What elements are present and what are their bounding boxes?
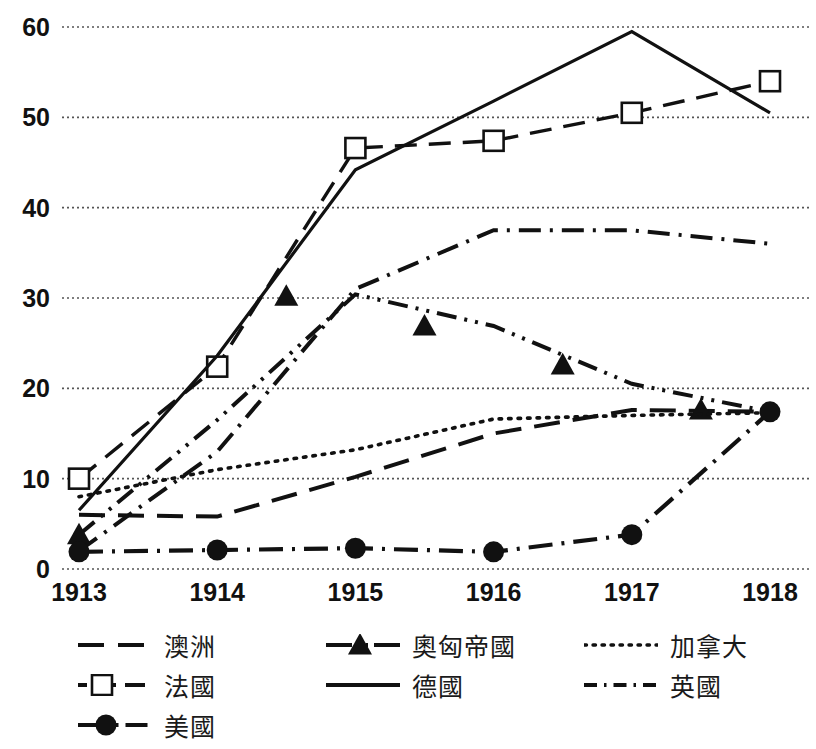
legend-label-canada: 加拿大 <box>670 627 748 663</box>
legend-item-britain[interactable]: 英國 <box>584 665 808 705</box>
y-axis-tick-labels: 0102030405060 <box>22 13 50 583</box>
marker-austria-hungary-2 <box>413 314 437 336</box>
y-tick-label-40: 40 <box>22 194 50 222</box>
legend-label-france: 法國 <box>164 667 216 703</box>
marker-austria-hungary-3 <box>551 353 575 375</box>
marker-austria-hungary-1 <box>274 284 298 306</box>
legend-label-usa: 美國 <box>164 707 216 743</box>
legend-item-germany[interactable]: 德國 <box>326 665 584 705</box>
marker-usa-1914 <box>207 540 228 561</box>
legend-swatch-germany <box>326 674 400 696</box>
y-tick-label-50: 50 <box>22 103 50 131</box>
legend-item-australia[interactable]: 澳洲 <box>78 625 326 665</box>
x-tick-label-1914: 1914 <box>189 578 245 606</box>
legend-marker-france <box>92 675 112 695</box>
legend-swatch-france <box>78 674 152 696</box>
legend-item-austria-hungary[interactable]: 奧匈帝國 <box>326 625 584 665</box>
marker-france-1916 <box>484 131 504 151</box>
legend-item-france[interactable]: 法國 <box>78 665 326 705</box>
gridlines <box>62 27 812 569</box>
marker-france-1915 <box>345 138 365 158</box>
series-line-france <box>79 81 770 478</box>
chart-legend: 澳洲奧匈帝國加拿大法國德國英國美國 <box>78 625 808 745</box>
legend-label-australia: 澳洲 <box>164 627 216 663</box>
legend-swatch-britain <box>584 674 658 696</box>
series-australia <box>79 410 770 517</box>
y-tick-label-20: 20 <box>22 374 50 402</box>
x-tick-label-1916: 1916 <box>466 578 522 606</box>
legend-marker-usa <box>96 715 117 736</box>
legend-label-britain: 英國 <box>670 667 722 703</box>
x-tick-label-1917: 1917 <box>604 578 660 606</box>
y-tick-label-30: 30 <box>22 284 50 312</box>
legend-label-germany: 德國 <box>412 667 464 703</box>
x-tick-label-1918: 1918 <box>742 578 798 606</box>
marker-usa-1915 <box>345 538 366 559</box>
marker-france-1914 <box>207 357 227 377</box>
series-line-australia <box>79 410 770 517</box>
marker-usa-1918 <box>760 401 781 422</box>
legend-swatch-canada <box>584 634 658 656</box>
legend-item-canada[interactable]: 加拿大 <box>584 625 808 665</box>
chart-page: 0102030405060 191319141915191619171918 澳… <box>0 0 816 749</box>
legend-swatch-usa <box>78 714 152 736</box>
x-axis-tick-labels: 191319141915191619171918 <box>51 578 798 606</box>
y-tick-label-10: 10 <box>22 465 50 493</box>
marker-france-1917 <box>622 103 642 123</box>
marker-usa-1917 <box>621 524 642 545</box>
x-tick-label-1913: 1913 <box>51 578 107 606</box>
marker-france-1918 <box>760 71 780 91</box>
y-tick-label-60: 60 <box>22 13 50 41</box>
legend-item-usa[interactable]: 美國 <box>78 705 326 745</box>
x-tick-label-1915: 1915 <box>328 578 384 606</box>
legend-swatch-australia <box>78 634 152 656</box>
data-series-layer <box>67 32 781 563</box>
legend-swatch-austria-hungary <box>326 634 400 656</box>
y-tick-label-0: 0 <box>36 555 50 583</box>
marker-usa-1916 <box>483 541 504 562</box>
legend-label-austria-hungary: 奧匈帝國 <box>412 627 516 663</box>
marker-usa-1913 <box>69 541 90 562</box>
marker-france-1913 <box>69 469 89 489</box>
